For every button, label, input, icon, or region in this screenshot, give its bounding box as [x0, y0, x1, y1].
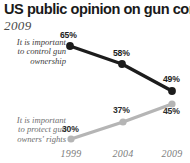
value-label-control-2004: 58%	[113, 49, 130, 58]
value-label-control-1999: 65%	[60, 31, 77, 40]
data-point-rights-1999	[67, 135, 74, 142]
plot-area	[0, 0, 190, 163]
data-point-rights-2004	[119, 118, 126, 125]
data-point-control-2004	[118, 60, 126, 68]
x-axis-tick-2009: 2009	[154, 148, 190, 159]
value-label-rights-2009: 45%	[163, 107, 180, 116]
value-label-control-2009: 49%	[163, 75, 180, 84]
gun-control-line-chart: US public opinion on gun control 2009 It…	[0, 0, 190, 163]
x-axis-tick-1999: 1999	[53, 148, 89, 159]
data-point-control-2009	[168, 87, 176, 95]
value-label-rights-2004: 37%	[113, 106, 130, 115]
x-axis-tick-2004: 2004	[105, 148, 141, 159]
value-label-rights-1999: 30%	[62, 125, 79, 134]
data-point-control-1999	[66, 42, 74, 50]
